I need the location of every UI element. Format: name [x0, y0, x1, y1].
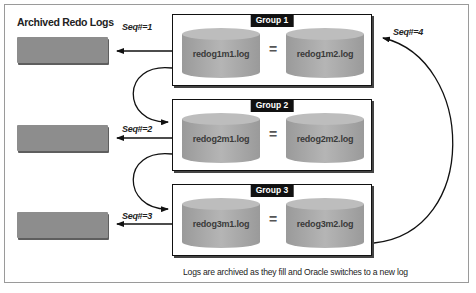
group-label: Group 3 [251, 184, 294, 197]
log-member-cylinder: redog3m2.log [285, 197, 365, 249]
log-member-cylinder: redog2m1.log [181, 112, 261, 164]
equals-sign: = [269, 126, 277, 142]
equals-sign: = [269, 41, 277, 57]
equals-sign: = [269, 211, 277, 227]
log-member-name: redog2m2.log [285, 134, 365, 144]
redo-group-2: Group 2 redog2m1.log = redog2m2.log [172, 99, 372, 171]
redo-group-1: Group 1 redog1m1.log = redog1m2.log [172, 14, 372, 86]
group-label: Group 1 [251, 14, 294, 27]
group-label: Group 2 [251, 99, 294, 112]
log-member-name: redog1m1.log [181, 49, 261, 59]
seq-label-3: Seq#=3 [122, 211, 152, 221]
log-member-name: redog2m1.log [181, 134, 261, 144]
log-member-name: redog3m1.log [181, 219, 261, 229]
redo-group-3: Group 3 redog3m1.log = redog3m2.log [172, 184, 372, 256]
log-member-cylinder: redog3m1.log [181, 197, 261, 249]
log-member-name: redog3m2.log [285, 219, 365, 229]
log-member-cylinder: redog1m1.log [181, 27, 261, 79]
log-member-cylinder: redog1m2.log [285, 27, 365, 79]
seq-label-1: Seq#=1 [122, 22, 152, 32]
seq-label-2: Seq#=2 [122, 124, 152, 134]
log-member-cylinder: redog2m2.log [285, 112, 365, 164]
seq-label-4: Seq#=4 [393, 27, 423, 37]
log-member-name: redog1m2.log [285, 49, 365, 59]
diagram-caption: Logs are archived as they fill and Oracl… [183, 267, 408, 277]
